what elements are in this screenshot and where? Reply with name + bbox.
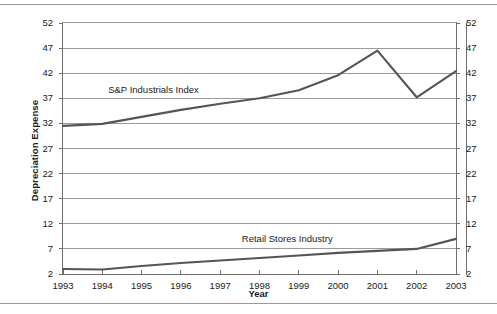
y-tick-label-right: 37 [466,93,494,103]
series-annotation: Retail Stores Industry [242,234,333,244]
y-tick-label-right: 27 [466,144,494,154]
y-tick-label-left: 22 [25,169,53,179]
y-tick-label-left: 7 [25,244,53,254]
page-rule-bottom [0,303,497,304]
x-axis-title: Year [62,288,455,299]
y-tick-mark-right [456,173,460,174]
y-tick-label-right: 52 [466,18,494,28]
y-tick-mark-right [456,48,460,49]
y-tick-mark-right [456,248,460,249]
y-tick-mark-right [456,223,460,224]
y-tick-label-left: 17 [25,194,53,204]
y-tick-label-right: 17 [466,194,494,204]
y-tick-mark-right [456,73,460,74]
y-tick-label-left: 42 [25,68,53,78]
y-tick-label-left: 47 [25,43,53,53]
line-chart-figure: Depreciation Expense 2277121217172222272… [0,5,497,302]
y-tick-mark-right [456,23,460,24]
y-tick-label-right: 7 [466,244,494,254]
series-annotation: S&P Industrials Index [108,85,199,95]
y-tick-label-right: 2 [466,269,494,279]
y-tick-label-left: 52 [25,18,53,28]
y-tick-mark-right [456,98,460,99]
y-tick-label-right: 22 [466,169,494,179]
y-tick-label-right: 32 [466,118,494,128]
y-tick-mark-right [456,123,460,124]
y-tick-label-left: 2 [25,269,53,279]
y-tick-label-right: 12 [466,219,494,229]
y-tick-mark-right [456,198,460,199]
plot-area: 2277121217172222272732323737424247475252… [62,22,457,275]
y-tick-label-right: 42 [466,68,494,78]
y-tick-mark-right [456,274,460,275]
y-tick-label-left: 32 [25,118,53,128]
y-tick-mark-right [456,148,460,149]
y-tick-label-left: 37 [25,93,53,103]
y-tick-label-left: 12 [25,219,53,229]
y-tick-label-right: 47 [466,43,494,53]
y-tick-label-left: 27 [25,144,53,154]
